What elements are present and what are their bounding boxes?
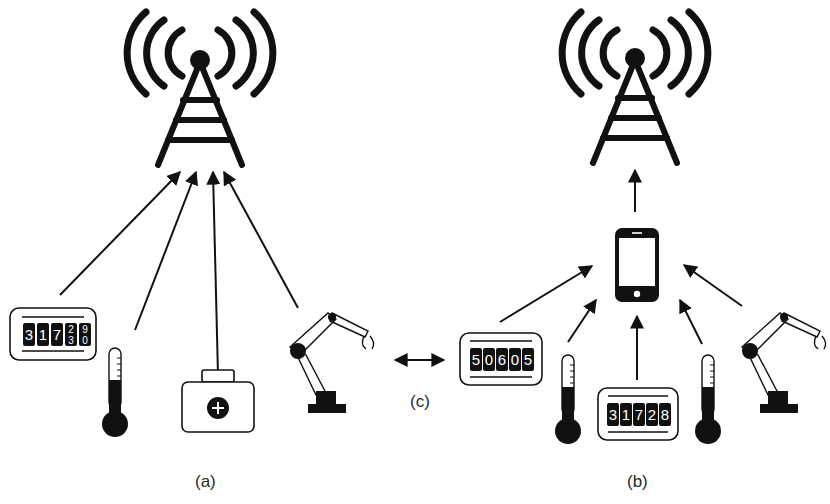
robot-arm-icon [742,313,826,413]
utility-meter-icon: 3 1 7 2 8 [598,388,678,440]
svg-text:0: 0 [485,351,493,368]
thermometer-icon [555,355,581,444]
utility-meter-icon: 3 1 7 2 3 9 0 [10,308,96,360]
svg-text:5: 5 [472,351,480,368]
medical-kit-icon [182,370,254,432]
iot-connectivity-diagram: 3 1 7 2 3 9 0 [0,0,830,504]
svg-text:3: 3 [609,406,617,423]
svg-text:9: 9 [82,324,88,335]
panel-b: 5 0 6 0 5 3 1 [460,12,826,444]
svg-text:8: 8 [661,406,669,423]
svg-text:0: 0 [511,351,519,368]
svg-text:0: 0 [82,335,88,346]
smartphone-icon [615,228,659,302]
thermometer-icon [102,348,128,437]
svg-text:2: 2 [68,324,74,335]
cell-tower-icon [127,12,273,165]
caption-a: (a) [195,472,216,492]
robot-arm-icon [290,313,374,413]
svg-text:3: 3 [25,326,33,343]
thermometer-icon [695,355,721,444]
svg-text:1: 1 [39,326,47,343]
caption-b: (b) [627,472,648,492]
svg-text:5: 5 [524,351,532,368]
svg-text:6: 6 [498,351,506,368]
svg-text:3: 3 [68,335,74,346]
svg-text:7: 7 [635,406,643,423]
caption-c: (c) [410,392,430,412]
panel-a: 3 1 7 2 3 9 0 [10,12,374,437]
svg-text:1: 1 [622,406,630,423]
svg-text:2: 2 [648,406,656,423]
svg-text:7: 7 [53,326,61,343]
cell-tower-icon [562,12,708,163]
utility-meter-icon: 5 0 6 0 5 [460,333,542,385]
